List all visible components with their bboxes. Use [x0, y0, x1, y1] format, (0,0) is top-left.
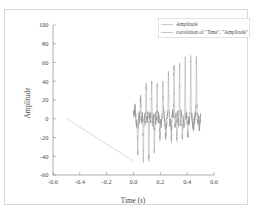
chart-figure: 100806040200-20-40-60 -0.6-0.4-0.20.00.2…: [0, 0, 257, 215]
y-tick-label: -20: [40, 134, 49, 141]
y-tick-label: 80: [42, 40, 48, 47]
x-tick-label: 0.4: [183, 178, 192, 185]
x-tick-group: -0.6-0.4-0.20.00.20.40.6: [48, 172, 218, 185]
series-correlation-burst: [134, 55, 201, 162]
y-tick-label: 100: [39, 21, 49, 28]
x-tick-label: 0.2: [156, 178, 164, 185]
x-tick-label: 0.6: [210, 178, 218, 185]
legend-label-correlation: correlation of "Time", "Amplitude": [176, 29, 248, 35]
y-tick-label: 20: [42, 96, 48, 103]
series-amplitude-ramp: [66, 119, 133, 161]
x-tick-label: -0.6: [48, 178, 58, 185]
y-tick-group: 100806040200-20-40-60: [39, 21, 56, 178]
x-axis-label: Time (s): [121, 197, 146, 205]
x-tick-label: 0.0: [130, 178, 138, 185]
legend-label-amplitude: Amplitude: [176, 21, 199, 27]
y-tick-label: 60: [42, 59, 48, 66]
y-axis-label: Amplitude: [24, 88, 32, 119]
plot-area: 100806040200-20-40-60 -0.6-0.4-0.20.00.2…: [0, 0, 257, 215]
y-tick-label: 40: [42, 78, 48, 85]
y-tick-label: -40: [40, 153, 49, 160]
x-tick-label: -0.2: [102, 178, 112, 185]
y-tick-label: 0: [45, 115, 48, 122]
legend[interactable]: Amplitude correlation of "Time", "Amplit…: [159, 19, 250, 38]
series-group: [66, 55, 200, 162]
x-tick-label: -0.4: [75, 178, 86, 185]
